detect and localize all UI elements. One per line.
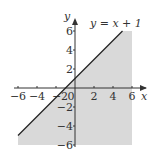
y-tick-label: 2 <box>66 63 73 76</box>
y-axis-label: y <box>63 10 71 23</box>
y-tick-label: 4 <box>66 44 73 57</box>
x-tick-label: −4 <box>29 90 45 103</box>
y-tick-label: 6 <box>66 25 73 38</box>
x-tick-label: 4 <box>110 90 117 103</box>
x-axis-label: x <box>141 90 148 103</box>
inequality-graph: −6−4−20246−6−4−2246 y = x + 1 x y <box>0 0 154 158</box>
x-tick-label: −6 <box>10 90 26 103</box>
y-tick-label: −4 <box>57 120 73 133</box>
x-tick-label: 2 <box>91 90 98 103</box>
x-tick-label: 6 <box>129 90 136 103</box>
equation-label: y = x + 1 <box>89 17 142 30</box>
y-tick-label: −2 <box>57 101 73 114</box>
y-tick-label: −6 <box>57 139 73 152</box>
y-axis-arrow-icon <box>72 18 78 25</box>
